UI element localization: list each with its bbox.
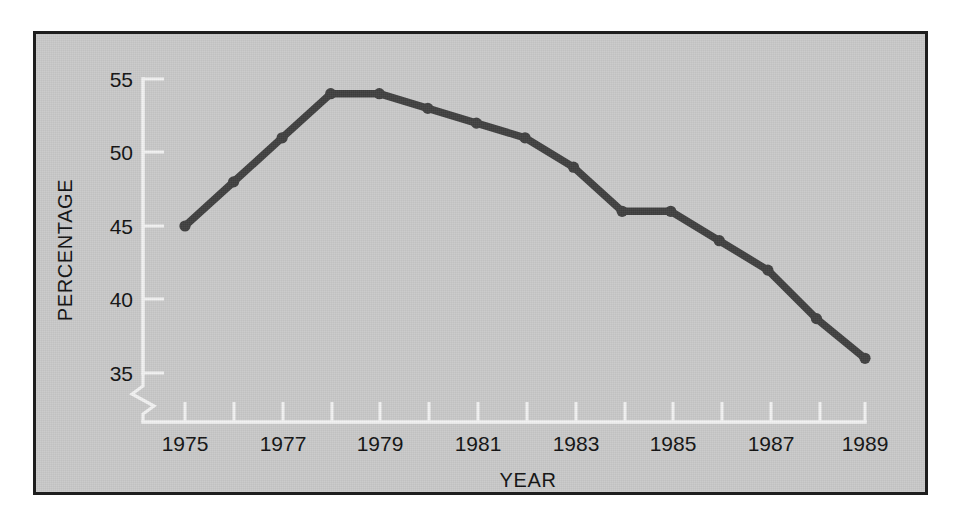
data-point [228, 176, 239, 187]
data-point [519, 132, 530, 143]
data-point [422, 103, 433, 114]
x-axis-title: YEAR [500, 469, 557, 491]
screenshot-page: 55 50 45 40 35 1975 1977 1979 1981 1983 … [0, 0, 960, 531]
x-tick-label-1981: 1981 [455, 432, 502, 455]
y-tick-label-40: 40 [110, 288, 133, 311]
y-axis-title: PERCENTAGE [54, 179, 76, 321]
data-point [277, 132, 288, 143]
x-tick-label-1983: 1983 [553, 432, 600, 455]
data-point [617, 206, 628, 217]
axis-break-zigzag [132, 373, 154, 422]
y-axis-ticks [143, 79, 164, 373]
x-tick-label-1975: 1975 [162, 432, 209, 455]
y-tick-label-45: 45 [110, 215, 133, 238]
data-point [325, 88, 336, 99]
line-chart: 55 50 45 40 35 1975 1977 1979 1981 1983 … [36, 34, 931, 498]
y-tick-label-50: 50 [110, 141, 133, 164]
data-point [568, 162, 579, 173]
data-point [179, 220, 190, 231]
data-series-markers [179, 88, 870, 364]
x-tick-label-1987: 1987 [748, 432, 795, 455]
data-point [471, 118, 482, 129]
chart-figure-frame: 55 50 45 40 35 1975 1977 1979 1981 1983 … [33, 31, 928, 495]
x-tick-label-1977: 1977 [260, 432, 307, 455]
data-point [762, 265, 773, 276]
data-point [665, 206, 676, 217]
y-tick-label-35: 35 [110, 362, 133, 385]
x-tick-label-1985: 1985 [650, 432, 697, 455]
x-tick-label-1989: 1989 [842, 432, 889, 455]
data-point [859, 353, 870, 364]
data-point [374, 88, 385, 99]
y-tick-label-55: 55 [110, 68, 133, 91]
x-axis-ticks [185, 402, 865, 422]
data-point [714, 235, 725, 246]
x-tick-label-1979: 1979 [357, 432, 404, 455]
data-point [811, 313, 822, 324]
